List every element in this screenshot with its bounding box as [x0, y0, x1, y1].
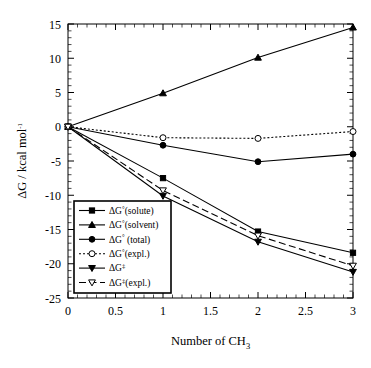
y-tick-label: -5: [51, 155, 61, 169]
legend-label-main: ΔG: [109, 263, 122, 273]
y-tick-label: 10: [49, 52, 61, 66]
y-tick-label: 0: [55, 120, 61, 134]
legend-label-main: ΔG: [109, 278, 122, 288]
y-axis-label: ΔG / kcal mol-1: [15, 123, 29, 199]
y-axis-label-sup: -1: [16, 123, 23, 129]
data-point: [350, 151, 356, 157]
legend-label-tail: (solute): [125, 206, 154, 217]
legend-label-tail: (solvent): [125, 220, 159, 231]
x-axis-label: Number of CH3: [171, 334, 250, 351]
legend-label-tail: (expl.): [125, 249, 150, 260]
legend-label-main: ΔG: [109, 220, 122, 230]
chart-figure: -25-20-15-10-505101500.511.522.53Number …: [0, 0, 371, 368]
data-point: [160, 142, 166, 148]
legend-marker: [89, 236, 95, 242]
x-tick-label: 2.5: [298, 304, 313, 318]
legend-label-tail: (total): [125, 235, 151, 246]
legend-label-main: ΔG: [109, 249, 122, 259]
y-tick-label: 5: [55, 86, 61, 100]
y-tick-label: -20: [45, 257, 61, 271]
legend-marker: [89, 251, 95, 257]
legend: ΔG°(solute)ΔG°(solvent)ΔG° (total)ΔG°(ex…: [74, 201, 171, 293]
data-point: [350, 129, 356, 135]
y-tick-label: -10: [45, 189, 61, 203]
x-tick-label: 1: [160, 304, 166, 318]
legend-label: ΔG°(solvent): [109, 219, 158, 231]
x-tick-label: 1.5: [203, 304, 218, 318]
x-axis-label-main: Number of CH: [171, 334, 246, 348]
data-point: [255, 135, 261, 141]
data-point: [160, 135, 166, 141]
y-axis-label-main: ΔG / kcal mol: [15, 128, 29, 199]
legend-label: ΔG°(expl.): [109, 248, 150, 260]
y-tick-label: -25: [45, 292, 61, 306]
y-tick-label: -15: [45, 223, 61, 237]
legend-label-main: ΔG: [109, 206, 122, 216]
x-axis-label-sub: 3: [246, 341, 250, 351]
legend-label: ΔG° (total): [109, 233, 150, 245]
legend-marker: [89, 208, 94, 213]
data-point: [160, 176, 165, 181]
chart-canvas: -25-20-15-10-505101500.511.522.53Number …: [0, 0, 371, 368]
data-point: [350, 250, 355, 255]
legend-label-tail: (expl.): [125, 278, 150, 289]
x-tick-label: 0.5: [108, 304, 123, 318]
data-point: [255, 159, 261, 165]
legend-label: ΔG‡(expl.): [109, 277, 150, 289]
legend-label: ΔG°(solute): [109, 205, 154, 217]
x-tick-label: 2: [255, 304, 261, 318]
y-tick-label: 15: [49, 18, 61, 32]
x-tick-label: 0: [65, 304, 71, 318]
legend-label-main: ΔG: [109, 235, 122, 245]
x-tick-label: 3: [350, 304, 356, 318]
